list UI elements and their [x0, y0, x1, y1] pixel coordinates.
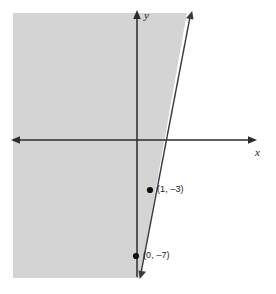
graph-figure: (1, –3) (0, –7) x y	[0, 0, 276, 294]
boundary-line-bottom-arrow-icon	[139, 270, 147, 279]
coordinate-plane-svg	[0, 0, 276, 294]
x-axis-right-arrow-icon	[248, 136, 257, 144]
point-label-0-neg7: (0, –7)	[143, 250, 170, 260]
point-label-1-neg3: (1, –3)	[157, 184, 184, 194]
y-axis-label: y	[144, 9, 149, 21]
x-axis-label: x	[255, 146, 260, 158]
plot-point-marker	[133, 253, 139, 259]
plot-point-marker	[147, 187, 153, 193]
boundary-line-top-arrow-icon	[186, 11, 194, 20]
shaded-solution-region	[13, 13, 187, 278]
